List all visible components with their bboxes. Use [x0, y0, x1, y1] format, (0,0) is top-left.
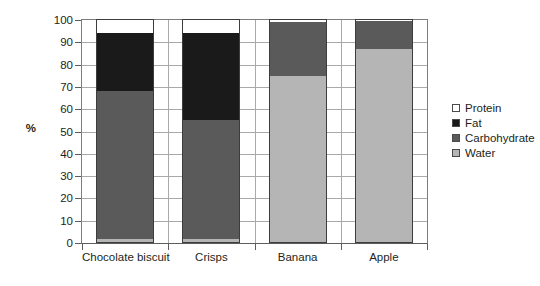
legend-swatch-icon	[452, 104, 460, 112]
x-tick-mark	[341, 244, 342, 250]
bar-segment-protein[interactable]	[269, 19, 327, 22]
y-tick-label: 10	[31, 215, 73, 227]
legend-item-fat[interactable]: Fat	[452, 116, 535, 130]
legend-item-protein[interactable]: Protein	[452, 101, 535, 115]
category-separator	[341, 20, 342, 243]
x-tick-mark	[427, 244, 428, 250]
x-tick-mark	[168, 244, 169, 250]
legend-swatch-icon	[452, 134, 460, 142]
y-tick-label: 80	[31, 59, 73, 71]
bar-apple[interactable]	[355, 20, 413, 243]
bar-banana[interactable]	[269, 20, 327, 243]
x-tick-label: Apple	[341, 251, 427, 263]
x-tick-label: Banana	[255, 251, 341, 263]
bar-segment-water[interactable]	[269, 75, 327, 243]
legend-item-label: Water	[465, 147, 495, 159]
y-tick-label: 70	[31, 81, 73, 93]
legend-swatch-icon	[452, 119, 460, 127]
y-tick-label: 0	[31, 237, 73, 249]
plot-area	[81, 19, 428, 244]
y-tick-label: 20	[31, 192, 73, 204]
y-tick-label: 30	[31, 170, 73, 182]
bar-segment-protein[interactable]	[96, 19, 154, 33]
stacked-bar-chart: % 0102030405060708090100 Chocolate biscu…	[0, 0, 540, 286]
bar-segment-carbohydrate[interactable]	[96, 90, 154, 238]
bar-chocolate-biscuit[interactable]	[96, 20, 154, 243]
bar-segment-carbohydrate[interactable]	[182, 119, 240, 238]
legend-swatch-icon	[452, 149, 460, 157]
x-tick-label: Chocolate biscuit	[82, 251, 168, 263]
y-tick-label: 100	[31, 14, 73, 26]
bar-segment-fat[interactable]	[96, 32, 154, 91]
x-tick-mark	[255, 244, 256, 250]
bar-segment-carbohydrate[interactable]	[355, 20, 413, 49]
bar-segment-water[interactable]	[355, 48, 413, 243]
bar-segment-protein[interactable]	[182, 19, 240, 33]
chart-legend: ProteinFatCarbohydrateWater	[452, 101, 535, 161]
legend-item-label: Fat	[465, 117, 482, 129]
bar-segment-protein[interactable]	[355, 19, 413, 21]
x-tick-label: Crisps	[168, 251, 254, 263]
category-separator	[168, 20, 169, 243]
legend-item-water[interactable]: Water	[452, 146, 535, 160]
x-tick-mark	[82, 244, 83, 250]
category-separator	[255, 20, 256, 243]
bar-segment-carbohydrate[interactable]	[269, 21, 327, 76]
y-tick-label: 60	[31, 103, 73, 115]
legend-item-label: Carbohydrate	[465, 132, 535, 144]
y-tick-label: 40	[31, 148, 73, 160]
y-tick-label: 90	[31, 36, 73, 48]
legend-item-carbohydrate[interactable]: Carbohydrate	[452, 131, 535, 145]
y-tick-label: 50	[31, 126, 73, 138]
bar-crisps[interactable]	[182, 20, 240, 243]
legend-item-label: Protein	[465, 102, 501, 114]
bar-segment-fat[interactable]	[182, 32, 240, 120]
